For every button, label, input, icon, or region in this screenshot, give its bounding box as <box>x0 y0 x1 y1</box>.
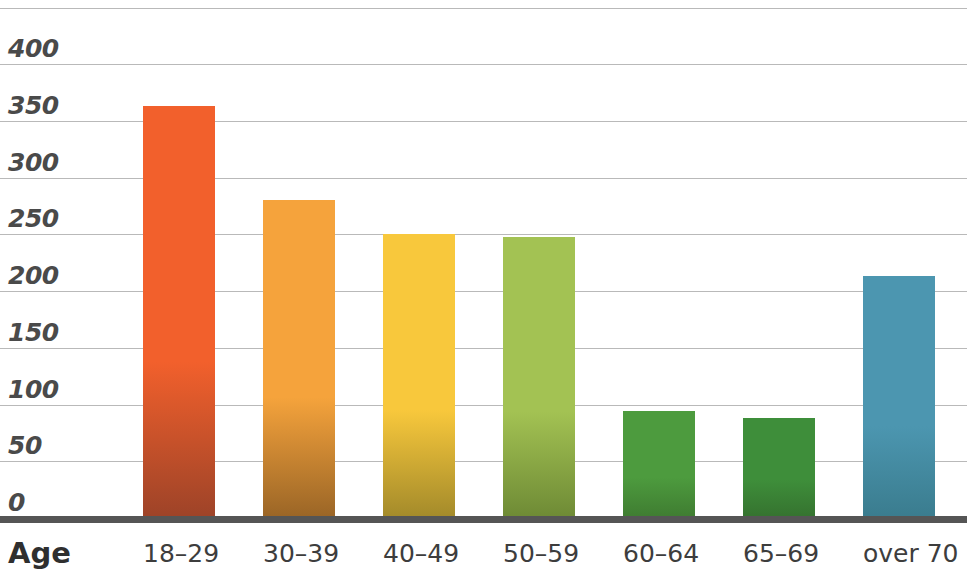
bar[interactable] <box>503 237 575 518</box>
y-axis-tick-label: 350 <box>8 93 59 118</box>
plot-area: 050100150200250300350400 <box>0 0 967 520</box>
gridline <box>0 64 967 65</box>
y-axis-tick-label: 50 <box>8 433 42 458</box>
x-axis-tick-label: 40–49 <box>383 541 455 566</box>
y-axis-tick-label: 150 <box>8 320 59 345</box>
y-axis-tick-label: 200 <box>8 263 59 288</box>
bar[interactable] <box>383 234 455 518</box>
bar-chart: 050100150200250300350400 Age 18–2930–394… <box>0 0 967 585</box>
x-axis-line <box>0 516 967 523</box>
y-axis-tick-label: 250 <box>8 206 59 231</box>
x-axis-tick-label: 60–64 <box>623 541 695 566</box>
bar[interactable] <box>743 418 815 518</box>
x-axis-tick-labels: Age 18–2930–3940–4950–5960–6465–69over 7… <box>0 523 967 585</box>
x-axis-tick-label: over 70 <box>863 541 935 566</box>
y-axis-tick-label: 300 <box>8 150 59 175</box>
bar[interactable] <box>623 411 695 518</box>
x-axis-title: Age <box>8 539 71 568</box>
y-axis-tick-label: 100 <box>8 377 59 402</box>
y-axis-tick-label: 400 <box>8 36 59 61</box>
x-axis-tick-label: 65–69 <box>743 541 815 566</box>
gridline <box>0 8 967 9</box>
x-axis-tick-label: 18–29 <box>143 541 215 566</box>
bar[interactable] <box>863 276 935 518</box>
x-axis-tick-label: 30–39 <box>263 541 335 566</box>
bar[interactable] <box>143 106 215 518</box>
x-axis-tick-label: 50–59 <box>503 541 575 566</box>
bar[interactable] <box>263 200 335 518</box>
y-axis-tick-label: 0 <box>8 490 25 515</box>
